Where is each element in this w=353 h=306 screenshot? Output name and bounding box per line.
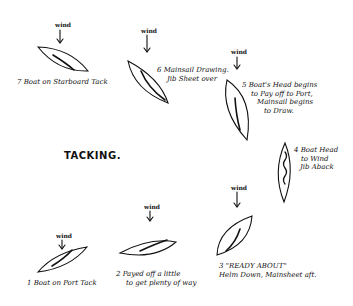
step-4-label: 4 Boat Head to Wind Jib Aback xyxy=(294,146,338,172)
wind-label: wind xyxy=(56,232,72,239)
wind-label: wind xyxy=(55,21,71,28)
step-5-label: 5 Boat's Head begins to Pay off to Port,… xyxy=(242,81,317,115)
wind-label: wind xyxy=(144,203,160,210)
step-6-label: 6 Mainsail Drawing. Jib Sheet over xyxy=(157,66,229,83)
step-3-label: 3 "READY ABOUT" Helm Down, Mainsheet aft… xyxy=(219,262,316,279)
wind-label: wind xyxy=(141,27,157,34)
step-2-label: 2 Payed off a little to get plenty of wa… xyxy=(116,270,196,287)
diagram-title: TACKING. xyxy=(64,150,121,161)
step-1-label: 1 Boat on Port Tack xyxy=(27,279,97,288)
step-7-label: 7 Boat on Starboard Tack xyxy=(17,78,108,87)
tacking-diagram: wind wind wind wind wind wind TACKING. 7… xyxy=(0,0,353,306)
wind-arrow-icon xyxy=(57,30,240,249)
wind-label: wind xyxy=(231,48,247,55)
wind-label: wind xyxy=(231,184,247,191)
